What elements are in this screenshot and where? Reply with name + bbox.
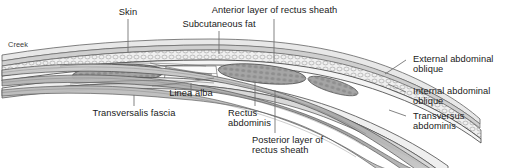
label-transversus-abdominis-line2: abdominis — [413, 121, 508, 132]
anatomy-figure-root: Creek Skin Subcutaneous fat Anterior lay… — [0, 0, 510, 168]
label-skin: Skin — [95, 7, 161, 18]
label-transversalis-fascia: Transversalis fascia — [76, 108, 192, 119]
label-subcutaneous-fat: Subcutaneous fat — [165, 19, 273, 30]
label-linea-alba: Linea alba — [158, 88, 224, 99]
label-internal-abdominal-oblique-line2: oblique — [413, 96, 508, 107]
label-external-abdominal-oblique-line2: oblique — [413, 64, 508, 75]
label-posterior-layer-of-rectus-sheath-line2: rectus sheath — [252, 145, 362, 156]
label-anterior-layer-of-rectus-sheath: Anterior layer of rectus sheath — [192, 5, 357, 16]
label-rectus-abdominis-line2: abdominis — [228, 118, 288, 129]
credit-label: Creek — [8, 41, 28, 50]
